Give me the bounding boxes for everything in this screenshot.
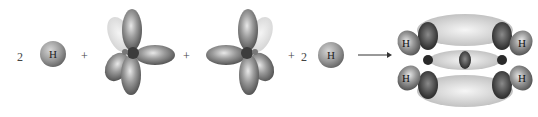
sp2-orbital-left-icon xyxy=(100,5,180,100)
product-h-label-bottom-right: H xyxy=(518,72,526,84)
product-h-label-bottom-left: H xyxy=(402,72,410,84)
hydrogen-atom-left: H xyxy=(40,41,66,67)
product-h-label-top-left: H xyxy=(402,37,410,49)
product-h-label-top-right: H xyxy=(518,37,526,49)
ethylene-molecule-icon: H H H H xyxy=(395,8,535,113)
hydrogen-label: H xyxy=(327,49,335,61)
sp2-orbital-right-icon xyxy=(200,5,280,100)
reaction-arrow-icon xyxy=(358,50,392,60)
plus-sign-1: + xyxy=(81,49,88,64)
plus-sign-3: + xyxy=(288,49,295,64)
hydrogen-atom-right: H xyxy=(318,42,344,68)
plus-sign-2: + xyxy=(183,49,190,64)
hydrogen-label: H xyxy=(49,48,57,60)
coefficient-2-left: 2 xyxy=(17,50,23,65)
coefficient-2-right: 2 xyxy=(301,50,307,65)
